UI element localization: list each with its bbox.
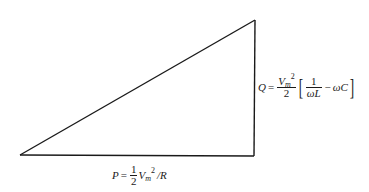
q-coefficient-numerator: Vm2 (277, 76, 296, 88)
q-coefficient-fraction: Vm22 (277, 76, 296, 99)
q-inner-denominator: ωL (306, 88, 322, 99)
q-coefficient-denominator: 2 (277, 88, 296, 99)
q-voltage-superscript: 2 (291, 72, 295, 81)
real-power-side-line (20, 155, 254, 156)
q-voltage: V (278, 75, 285, 87)
q-minus: − (325, 81, 331, 93)
open-bracket: [ (298, 75, 302, 99)
reactive-power-label: Q=Vm22[1ωL−ωC] (258, 75, 356, 99)
p-voltage-superscript: 2 (151, 166, 155, 175)
real-power-label: P=12Vm2/R (112, 164, 167, 187)
q-inner-numerator: 1 (306, 76, 322, 88)
p-symbol: P (112, 169, 119, 181)
p-voltage-subscript: m (145, 174, 151, 183)
q-symbol: Q (258, 81, 266, 93)
p-half-fraction: 12 (130, 164, 138, 187)
q-equals: = (268, 81, 274, 93)
q-inner-fraction: 1ωL (306, 76, 322, 99)
hypotenuse-line (20, 20, 255, 155)
q-capacitive-term: ωC (333, 81, 348, 93)
close-bracket: ] (350, 75, 354, 99)
p-equals: = (121, 169, 127, 181)
reactive-power-side-line (254, 20, 255, 156)
p-fraction-denominator: 2 (130, 176, 138, 187)
p-resistance: R (160, 169, 167, 181)
